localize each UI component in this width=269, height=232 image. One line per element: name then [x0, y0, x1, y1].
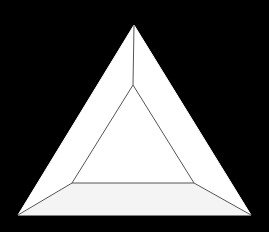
triangle-diagram — [0, 0, 269, 232]
